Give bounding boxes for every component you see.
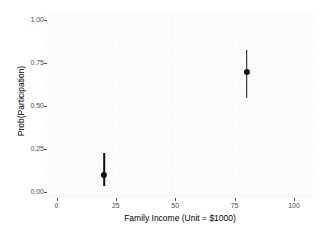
gridline-minor-horizontal — [47, 41, 313, 42]
y-tick-label: 0.50 — [2, 102, 44, 110]
gridline-major-vertical — [175, 13, 176, 198]
y-tick-label: 0.25 — [2, 145, 44, 153]
gridline-major-horizontal — [47, 106, 313, 107]
y-tick-label: 0.00 — [2, 188, 44, 196]
plot-panel — [47, 13, 313, 198]
gridline-major-vertical — [235, 13, 236, 198]
gridline-major-horizontal — [47, 20, 313, 21]
x-axis-title: Family Income (Unit = $1000) — [47, 212, 313, 224]
y-tick-label: 0.75 — [2, 59, 44, 67]
x-tick-label: 25 — [112, 201, 120, 210]
data-point — [243, 68, 249, 74]
y-axis-ticks: 0.000.250.500.751.00 — [0, 0, 44, 235]
gridline-minor-horizontal — [47, 127, 313, 128]
x-tick-label: 50 — [171, 201, 179, 210]
x-axis-ticks: 0255075100 — [47, 201, 313, 211]
x-tick-label: 100 — [288, 201, 300, 210]
gridline-major-vertical — [116, 13, 117, 198]
gridline-minor-horizontal — [47, 84, 313, 85]
x-tick-label: 75 — [231, 201, 239, 210]
y-tick-label: 1.00 — [2, 16, 44, 24]
gridline-major-horizontal — [47, 149, 313, 150]
error-bar — [103, 153, 105, 186]
gridline-major-horizontal — [47, 63, 313, 64]
gridline-minor-horizontal — [47, 170, 313, 171]
gridline-major-vertical — [57, 13, 58, 198]
x-tick-label: 0 — [55, 201, 59, 210]
data-point — [101, 172, 107, 178]
gridline-major-horizontal — [47, 192, 313, 193]
chart-canvas: Prob(Participation) 0.000.250.500.751.00… — [0, 0, 333, 235]
gridline-major-vertical — [294, 13, 295, 198]
